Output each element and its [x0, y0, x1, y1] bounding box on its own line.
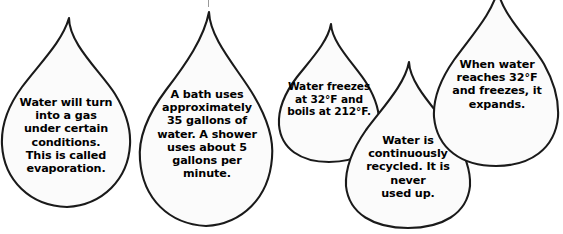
droplet-5-text: When water reaches 32°F and freezes, it … [444, 58, 550, 111]
droplet-diagram: Water will turn into a gas under certain… [0, 0, 563, 234]
droplet-2-text: A bath uses approximately 35 gallons of … [148, 88, 266, 181]
droplet-1-text: Water will turn into a gas under certain… [10, 96, 122, 175]
water-droplet-5: When water reaches 32°F and freezes, it … [432, 0, 560, 168]
scan-artifact-mark [208, 0, 209, 7]
water-droplet-1: Water will turn into a gas under certain… [0, 16, 132, 210]
water-droplet-2: A bath uses approximately 35 gallons of … [136, 10, 276, 228]
